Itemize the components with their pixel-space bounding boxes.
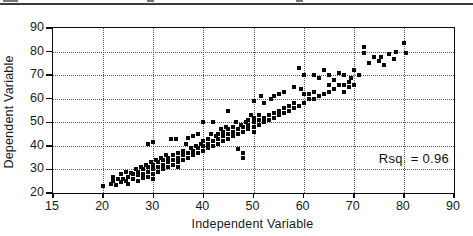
data-point <box>136 179 140 183</box>
data-point <box>231 134 235 138</box>
data-point <box>151 167 155 171</box>
data-point <box>257 113 261 117</box>
y-axis-tick <box>46 145 52 147</box>
data-point <box>377 59 381 63</box>
data-point <box>166 160 170 164</box>
data-point <box>211 139 215 143</box>
data-point <box>131 172 135 176</box>
data-point <box>282 111 286 115</box>
data-point <box>349 76 353 80</box>
data-point <box>342 83 346 87</box>
y-tick-label: 50 <box>10 114 44 128</box>
data-point <box>257 118 261 122</box>
data-point <box>236 132 240 136</box>
data-point <box>277 92 281 96</box>
data-point <box>186 136 190 140</box>
data-point <box>201 149 205 153</box>
data-point <box>201 139 205 143</box>
data-point <box>236 147 240 151</box>
data-point <box>161 158 165 162</box>
data-point <box>241 151 245 155</box>
gridline-vertical <box>354 28 355 193</box>
data-point <box>181 158 185 162</box>
data-point <box>252 125 256 129</box>
data-point <box>184 142 188 146</box>
data-point <box>206 142 210 146</box>
data-point <box>126 182 130 186</box>
rsq-annotation: Rsq. = 0.96 <box>379 151 449 166</box>
data-point <box>216 132 220 136</box>
data-point <box>302 92 306 96</box>
data-point <box>352 68 356 72</box>
data-point <box>161 163 165 167</box>
cut-off-text-fragment <box>147 0 154 2</box>
data-point <box>141 167 145 171</box>
data-point <box>171 158 175 162</box>
data-point <box>171 153 175 157</box>
data-point <box>146 175 150 179</box>
data-point <box>136 170 140 174</box>
y-tick-label: 70 <box>10 67 44 81</box>
scatter-plot-figure: Dependent Variable Rsq. = 0.96 Independe… <box>0 0 473 236</box>
data-point <box>342 73 346 77</box>
data-point <box>181 153 185 157</box>
data-point <box>196 146 200 150</box>
gridline-vertical <box>304 28 305 193</box>
plot-area: Rsq. = 0.96 <box>52 27 455 194</box>
data-point <box>267 113 271 117</box>
data-point <box>161 167 165 171</box>
data-point <box>206 146 210 150</box>
data-point <box>332 87 336 91</box>
data-point <box>317 76 321 80</box>
data-point <box>282 106 286 110</box>
y-tick-label: 80 <box>10 44 44 58</box>
data-point <box>352 83 356 87</box>
data-point <box>337 83 341 87</box>
data-point <box>191 134 195 138</box>
cut-off-text-fragment <box>296 0 303 2</box>
data-point <box>312 97 316 101</box>
data-point <box>176 156 180 160</box>
data-point <box>337 71 341 75</box>
data-point <box>262 120 266 124</box>
data-point <box>156 160 160 164</box>
data-point <box>156 165 160 169</box>
data-point <box>241 156 245 160</box>
y-tick-label: 90 <box>10 20 44 34</box>
data-point <box>287 109 291 113</box>
x-axis-tick <box>253 193 255 198</box>
data-point <box>201 120 205 124</box>
data-point <box>292 101 296 105</box>
data-point <box>292 106 296 110</box>
data-point <box>101 184 105 188</box>
data-point <box>201 144 205 148</box>
data-point <box>342 90 346 94</box>
y-tick-label: 30 <box>10 161 44 175</box>
data-point <box>322 68 326 72</box>
data-point <box>282 90 286 94</box>
data-point <box>136 173 140 177</box>
data-point <box>259 94 263 98</box>
y-axis-tick <box>46 122 52 124</box>
data-point <box>131 177 135 181</box>
data-point <box>211 120 215 124</box>
data-point <box>231 125 235 129</box>
data-point <box>327 90 331 94</box>
data-point <box>156 170 160 174</box>
data-point <box>347 85 351 89</box>
data-point <box>206 137 210 141</box>
data-point <box>372 55 376 59</box>
data-point <box>277 109 281 113</box>
data-point <box>191 149 195 153</box>
data-point <box>216 142 220 146</box>
data-point <box>166 156 170 160</box>
data-point <box>146 170 150 174</box>
data-point <box>246 123 250 127</box>
data-point <box>151 177 155 181</box>
data-point <box>307 97 311 101</box>
data-point <box>252 130 256 134</box>
data-point <box>327 83 331 87</box>
data-point <box>322 92 326 96</box>
x-tick-label: 70 <box>346 199 360 213</box>
data-point <box>211 144 215 148</box>
